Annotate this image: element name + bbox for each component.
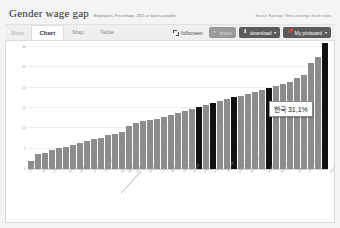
toolbar-actions: fullscreen share download ▾ My pinboard …: [170, 27, 331, 38]
y-axis-tick-label: 30: [22, 45, 26, 49]
tab-chart[interactable]: Chart: [31, 25, 65, 40]
page-title: Gender wage gap: [9, 7, 89, 19]
bar[interactable]: [245, 94, 251, 169]
share-button[interactable]: share: [209, 27, 237, 38]
bar[interactable]: [231, 97, 237, 169]
bar[interactable]: [182, 111, 188, 169]
bar[interactable]: [238, 96, 244, 169]
bar[interactable]: [210, 103, 216, 169]
bar[interactable]: [217, 101, 223, 169]
y-axis-tick-label: 25: [22, 65, 26, 69]
bar[interactable]: [133, 123, 139, 169]
fullscreen-button[interactable]: fullscreen: [170, 28, 205, 38]
bar[interactable]: [301, 75, 307, 169]
bar[interactable]: [154, 119, 160, 169]
bar[interactable]: [161, 117, 167, 169]
bar[interactable]: [224, 99, 230, 169]
chevron-down-icon: ▾: [274, 30, 276, 35]
y-axis-tick-label: 0: [24, 167, 26, 171]
y-axis-tick-label: 5: [24, 147, 26, 151]
page-header: Gender wage gap Employees, Percentage, 2…: [5, 4, 335, 24]
share-label: share: [220, 30, 233, 36]
download-label: download: [250, 30, 271, 36]
download-button[interactable]: download ▾: [239, 27, 280, 38]
bar[interactable]: [294, 78, 300, 169]
chevron-down-icon-pinboard: ▾: [325, 30, 327, 35]
chart-toolbar: Show Chart Map Table fullscreen share do…: [5, 24, 335, 41]
y-axis-tick-label: 10: [22, 126, 26, 130]
tab-map[interactable]: Map: [64, 25, 92, 40]
fullscreen-label: fullscreen: [181, 30, 202, 36]
source-note: Source: Earnings: Gross earnings: decile…: [255, 14, 331, 18]
pinboard-label: My pinboard: [294, 30, 322, 36]
show-label: Show: [11, 30, 24, 36]
y-axis-tick-label: 20: [22, 86, 26, 90]
bar[interactable]: [189, 109, 195, 169]
view-tabs: Chart Map Table: [31, 25, 123, 40]
pinboard-button[interactable]: My pinboard ▾: [283, 27, 331, 38]
bar[interactable]: [266, 88, 272, 169]
bar[interactable]: [280, 84, 286, 169]
page-subtitle: Employees, Percentage, 2021 or latest av…: [94, 14, 176, 18]
share-icon: [213, 30, 218, 35]
bar[interactable]: [196, 107, 202, 169]
pin-icon: [287, 30, 292, 35]
bar[interactable]: [126, 126, 132, 169]
bar[interactable]: [273, 86, 279, 169]
bar[interactable]: [287, 82, 293, 169]
value-tooltip: 한국 31,1%: [269, 101, 313, 117]
bar[interactable]: [168, 115, 174, 169]
tab-table[interactable]: Table: [92, 25, 122, 40]
fullscreen-icon: [173, 30, 179, 36]
download-icon: [243, 30, 248, 35]
data-portal-page: Gender wage gap Employees, Percentage, 2…: [0, 0, 340, 228]
chart-card: 051015202530 ColombiaBelgiumCosta RicaNo…: [5, 41, 335, 223]
y-axis-tick-label: 15: [22, 106, 26, 110]
bar[interactable]: [203, 105, 209, 169]
bar[interactable]: [322, 43, 328, 169]
x-axis-labels: ColombiaBelgiumCosta RicaNorwayDenmarkGr…: [28, 171, 328, 221]
